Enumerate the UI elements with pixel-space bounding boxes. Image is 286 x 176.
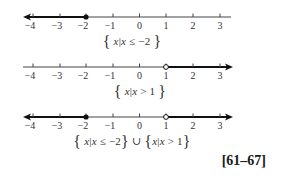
set-notation-3: { x|x ≤ −2} ∪ {x|x > 1} (73, 133, 190, 151)
number-line-1: −4 −3 −2 −1 0 1 2 3 (0, 4, 286, 30)
tick-label: −2 (78, 70, 89, 81)
open-endpoint (164, 65, 169, 70)
open-endpoint (164, 115, 169, 120)
set-notation-1: { x|x ≤ −2 } (103, 33, 162, 51)
tick-label: 0 (137, 20, 142, 31)
tick-label: 2 (191, 70, 196, 81)
number-line-3: −4 −3 −2 −1 0 1 2 3 (0, 104, 286, 130)
union-symbol: ∪ (129, 135, 144, 147)
tick-label: 1 (164, 70, 169, 81)
tick-label: −1 (105, 120, 116, 131)
tick-label: −2 (78, 120, 89, 131)
tick-label: 3 (218, 120, 223, 131)
tick-label: 0 (137, 70, 142, 81)
tick-label: −3 (52, 120, 63, 131)
tick-label: −1 (105, 20, 116, 31)
tick-label: −3 (52, 20, 63, 31)
tick-label: 0 (137, 120, 142, 131)
tick-label: 2 (191, 20, 196, 31)
reference-label: [61–67] (222, 153, 266, 169)
closed-endpoint (83, 114, 88, 119)
number-line-2: −4 −3 −2 −1 0 1 2 3 (0, 54, 286, 80)
tick-label: 3 (218, 20, 223, 31)
tick-label: 1 (164, 20, 169, 31)
tick-label: −3 (52, 70, 63, 81)
tick-label: 3 (218, 70, 223, 81)
tick-label: 2 (191, 120, 196, 131)
tick-label: −4 (25, 20, 36, 31)
number-line-figure: −4 −3 −2 −1 0 1 2 3 { x|x ≤ −2 } (0, 0, 286, 176)
tick-label: 1 (164, 120, 169, 131)
tick-label: −4 (25, 120, 36, 131)
tick-label: −2 (78, 20, 89, 31)
set-notation-2: { x|x > 1 } (114, 83, 166, 101)
tick-label: −4 (25, 70, 36, 81)
closed-endpoint (83, 14, 88, 19)
tick-label: −1 (105, 70, 116, 81)
